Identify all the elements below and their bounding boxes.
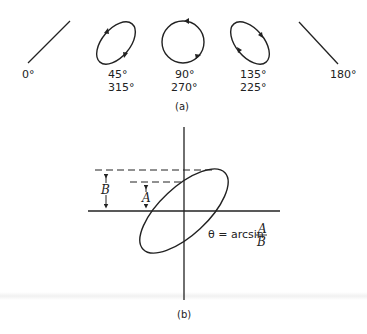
pattern-90-deg: 90° 270° [162,18,204,94]
label-A: A [141,191,151,205]
pattern-45-deg: 45° 315° [89,15,143,94]
pattern-0-deg: 0° [22,21,70,81]
formula-theta: θ = arcsin [208,228,264,241]
label-225: 225° [240,81,267,94]
arrow-icon [123,52,128,58]
caption-a: (a) [175,101,189,112]
label-0: 0° [22,68,35,81]
formula-denominator: B [256,235,266,249]
label-90: 90° [175,68,195,81]
lissajous-figure: 0° 45° 315° 90° 270° 135° 225° 180° (a) [0,0,367,334]
formula-numerator: A [257,222,267,236]
label-270: 270° [171,81,198,94]
caption-b: (b) [177,309,191,320]
arrow-icon [184,18,189,24]
pattern-180-deg: 180° [299,22,357,81]
label-315: 315° [108,81,135,94]
label-180: 180° [330,68,357,81]
arrow-icon [104,28,109,34]
pattern-135-deg: 135° 225° [223,15,277,94]
label-135: 135° [240,68,267,81]
label-45: 45° [108,68,128,81]
figure-b: B A θ = arcsin A B [88,127,280,300]
label-B: B [100,183,110,197]
